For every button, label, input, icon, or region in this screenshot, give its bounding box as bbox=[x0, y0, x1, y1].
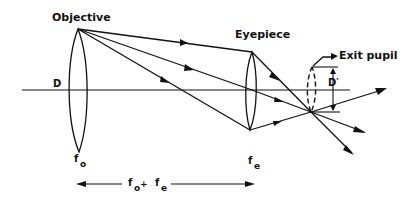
focal-length-sum-label: f o + f e bbox=[128, 177, 167, 193]
svg-text:f: f bbox=[155, 177, 160, 188]
arrowhead-icon bbox=[273, 121, 282, 126]
svg-text:f: f bbox=[128, 177, 133, 188]
svg-text:o: o bbox=[80, 159, 86, 169]
objective-label: Objective bbox=[52, 11, 111, 24]
eyepiece-label: Eyepiece bbox=[235, 28, 290, 41]
arrowhead-icon bbox=[184, 64, 194, 71]
exit-pupil-diameter-label: D′ bbox=[328, 77, 339, 88]
objective-focal-label: f o bbox=[74, 153, 86, 169]
arrowhead-icon bbox=[353, 126, 366, 133]
exit-pupil-label: Exit pupil bbox=[339, 49, 398, 62]
exit-pupil-leader bbox=[313, 53, 338, 66]
svg-text:f: f bbox=[74, 153, 79, 164]
incoming-rays bbox=[78, 29, 252, 130]
arrowhead-icon bbox=[375, 88, 387, 95]
arrowhead-icon bbox=[180, 39, 188, 46]
objective-diameter-label: D bbox=[53, 78, 61, 89]
svg-text:e: e bbox=[254, 161, 260, 171]
svg-text:e: e bbox=[161, 183, 167, 193]
arrowhead-icon bbox=[269, 72, 280, 81]
eyepiece-focal-label: f e bbox=[248, 155, 260, 171]
arrowhead-icon bbox=[160, 76, 170, 83]
svg-text:+: + bbox=[140, 179, 148, 189]
arrowhead-icon bbox=[274, 97, 284, 102]
svg-text:f: f bbox=[248, 155, 253, 166]
telescope-ray-diagram: Objective Eyepiece Exit pupil D D′ f o f… bbox=[0, 0, 416, 203]
